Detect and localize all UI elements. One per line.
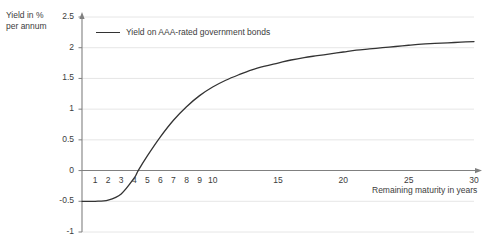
y-tick-label: 0.5 (44, 134, 74, 144)
chart-legend: Yield on AAA-rated government bonds (96, 27, 270, 37)
y-axis-title-line2: per annum (6, 21, 47, 32)
x-tick-label: 30 (463, 175, 485, 185)
y-tick-label: 2 (44, 42, 74, 52)
x-tick-label: 20 (332, 175, 354, 185)
y-tick-label: 1.5 (44, 72, 74, 82)
y-axis-title: Yield in % per annum (6, 10, 47, 32)
x-axis-arrow (475, 168, 482, 173)
y-tick-label: -1 (44, 226, 74, 236)
x-tick-label: 15 (267, 175, 289, 185)
y-tick-label: 2.5 (44, 11, 74, 21)
x-tick-label: 25 (398, 175, 420, 185)
y-axis-title-line1: Yield in % (6, 10, 47, 21)
y-tick-label: -0.5 (44, 195, 74, 205)
x-axis-title: Remaining maturity in years (372, 185, 477, 196)
axes-group (79, 12, 483, 232)
legend-label: Yield on AAA-rated government bonds (126, 27, 270, 37)
legend-line-swatch (96, 32, 120, 33)
y-tick-label: 0 (44, 165, 74, 175)
yield-curve-chart: Yield in % per annum Remaining maturity … (0, 0, 501, 246)
x-tick-label: 10 (202, 175, 224, 185)
y-tick-label: 1 (44, 103, 74, 113)
y-axis-arrow (79, 12, 84, 19)
gridlines-group (82, 17, 474, 232)
